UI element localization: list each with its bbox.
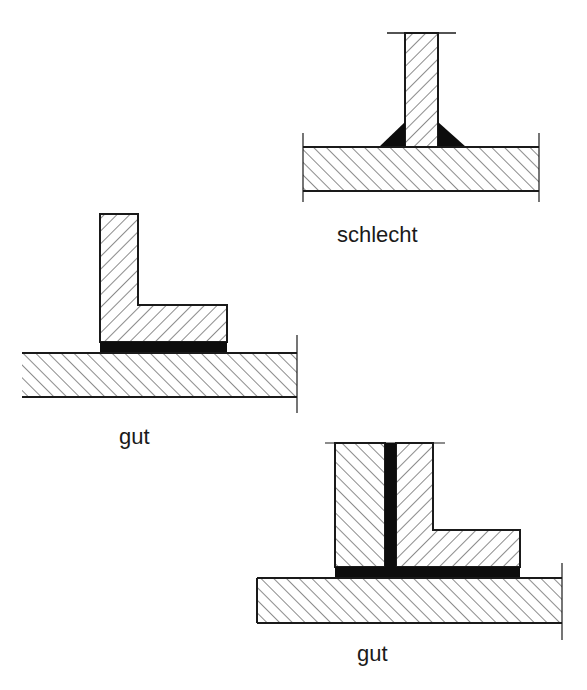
base-plate — [257, 578, 562, 623]
figure-double-angle — [257, 443, 562, 640]
joint-diagram — [0, 0, 587, 690]
left-block — [335, 443, 385, 567]
label-schlecht: schlecht — [337, 222, 418, 248]
adhesive-horizontal — [335, 567, 520, 578]
l-profile — [100, 214, 227, 342]
fillet-right — [438, 122, 466, 147]
base-plate — [303, 147, 539, 191]
figure-angle-on-plate — [22, 214, 297, 413]
adhesive-vertical — [385, 443, 396, 567]
fillet-left — [379, 122, 405, 147]
label-gut-middle: gut — [119, 424, 150, 450]
label-gut-bottom: gut — [357, 641, 388, 667]
figure-t-joint-fillet — [303, 33, 539, 202]
base-plate — [22, 353, 297, 397]
l-profile — [396, 443, 520, 567]
adhesive-layer — [100, 342, 227, 353]
web-plate — [405, 33, 438, 147]
